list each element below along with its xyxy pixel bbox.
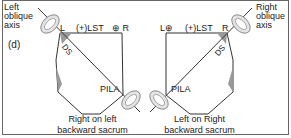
right-corner-r-label: R [222, 23, 229, 33]
right-corner-l-label: L⊕ [160, 23, 173, 33]
left-top-rotation-icon [37, 11, 62, 36]
left-corner-l-label: L [60, 23, 65, 33]
right-caption: Left on Right backward sacrum [152, 114, 247, 136]
sacral-torsion-diagram: Left oblique axis (d) L (+)LST ⊕ R DS PI… [0, 0, 291, 138]
right-oblique-axis-label: Right oblique axis [256, 3, 285, 30]
left-bottom-rotation-icon [118, 87, 143, 112]
left-oblique-axis-label: Left oblique axis [4, 3, 33, 30]
diagram-drawing [0, 0, 291, 138]
left-corner-r-label: ⊕ R [112, 23, 129, 33]
panel-label: (d) [8, 40, 20, 50]
left-caption: Right on left backward sacrum [45, 114, 140, 136]
right-bottom-rotation-icon [146, 87, 171, 112]
right-lower-shade [228, 67, 233, 92]
left-lst-label: (+)LST [76, 23, 104, 33]
left-pila-label: PILA [100, 84, 120, 94]
right-pila-label: PILA [171, 84, 191, 94]
right-lst-label: (+)LST [185, 23, 213, 33]
right-top-rotation-icon [228, 11, 253, 36]
